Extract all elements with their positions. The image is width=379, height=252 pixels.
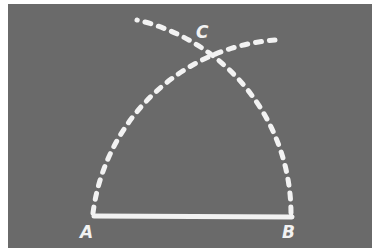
label-point-b: B	[282, 224, 295, 241]
label-point-a: A	[80, 224, 93, 241]
label-point-c: C	[196, 24, 208, 41]
segment-ab	[94, 216, 292, 217]
construction-drawing	[0, 0, 379, 252]
arc-centered-at-b	[93, 40, 275, 213]
arc-centered-at-a	[137, 20, 291, 213]
